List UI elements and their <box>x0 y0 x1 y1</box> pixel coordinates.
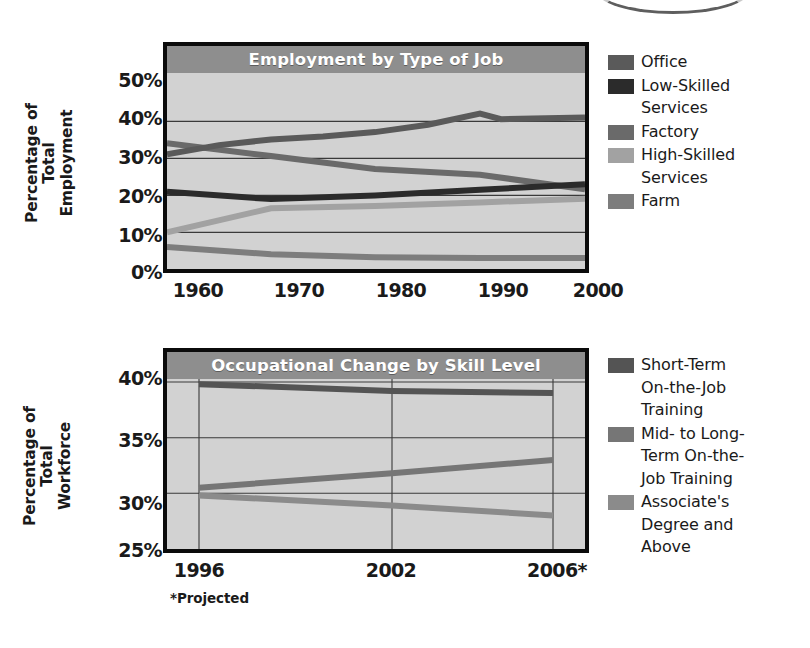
y-tick-label: 20% <box>118 185 162 207</box>
y-tick-label: 30% <box>118 492 162 514</box>
x-tick-label: 2002 <box>366 559 416 581</box>
legend-item-factory[interactable]: Factory <box>608 121 808 144</box>
y-tick-label: 30% <box>118 146 162 168</box>
y-tick-label: 25% <box>118 539 162 561</box>
bottom-chart-plot-area: Occupational Change by Skill Level <box>163 348 589 553</box>
x-tick-label: 1980 <box>376 279 426 301</box>
bottom-chart-legend: Short-Term On-the-Job Training Mid- to L… <box>608 354 808 560</box>
bottom-chart-footnote: *Projected <box>170 590 249 606</box>
employment-by-type-of-job-figure: Percentage of Total Employment 50% 40% 3… <box>0 0 810 312</box>
series-line-low-skilled-services <box>167 184 585 199</box>
series-line-associates-degree <box>199 496 553 516</box>
legend-item-high-skilled-services[interactable]: High-Skilled Services <box>608 144 808 189</box>
legend-item-label: Short-Term On-the-Job Training <box>641 354 726 422</box>
bottom-chart-y-axis-title: Percentage of Total Workforce <box>22 386 74 546</box>
y-tick-label: 40% <box>118 107 162 129</box>
bottom-chart-title: Occupational Change by Skill Level <box>211 356 541 375</box>
y-tick-label: 40% <box>118 367 162 389</box>
x-tick-label: 1996 <box>174 559 224 581</box>
y-tick-label: 50% <box>118 69 162 91</box>
legend-item-short-term-training[interactable]: Short-Term On-the-Job Training <box>608 354 808 422</box>
bottom-chart-y-tick-labels: 40% 35% 30% 25% <box>96 312 162 572</box>
top-chart-legend: Office Low-Skilled Services Factory High… <box>608 51 808 214</box>
legend-item-label: Mid- to Long- Term On-the- Job Training <box>641 423 745 491</box>
legend-swatch-icon <box>608 495 634 510</box>
series-line-high-skilled-services <box>167 199 585 233</box>
legend-swatch-icon <box>608 125 634 140</box>
legend-swatch-icon <box>608 358 634 373</box>
x-tick-label: 2006* <box>527 559 587 581</box>
legend-item-label: Farm <box>641 190 680 213</box>
bottom-chart-title-banner: Occupational Change by Skill Level <box>167 352 585 379</box>
top-chart-plot-area: Employment by Type of Job <box>163 42 589 273</box>
series-line-factory <box>167 143 585 189</box>
bottom-chart-svg <box>167 352 585 549</box>
y-tick-label: 35% <box>118 429 162 451</box>
x-tick-label: 1970 <box>274 279 324 301</box>
legend-item-label: Associate's Degree and Above <box>641 491 733 559</box>
y-tick-label: 10% <box>118 224 162 246</box>
legend-item-label: Factory <box>641 121 699 144</box>
x-tick-label: 2000 <box>573 279 623 301</box>
x-tick-label: 1960 <box>173 279 223 301</box>
legend-item-label: High-Skilled Services <box>641 144 735 189</box>
x-tick-label: 1990 <box>478 279 528 301</box>
legend-swatch-icon <box>608 427 634 442</box>
series-line-farm <box>167 247 585 258</box>
legend-item-label: Low-Skilled Services <box>641 75 730 120</box>
top-chart-title: Employment by Type of Job <box>249 50 504 69</box>
series-line-short-term-training <box>199 384 553 393</box>
occupational-change-by-skill-level-figure: Percentage of Total Workforce 40% 35% 30… <box>0 312 810 648</box>
legend-swatch-icon <box>608 55 634 70</box>
series-line-mid-long-term-training <box>199 460 553 488</box>
legend-swatch-icon <box>608 194 634 209</box>
legend-item-low-skilled-services[interactable]: Low-Skilled Services <box>608 75 808 120</box>
top-chart-svg <box>167 46 585 269</box>
legend-swatch-icon <box>608 148 634 163</box>
y-tick-label: 0% <box>131 261 162 283</box>
legend-swatch-icon <box>608 79 634 94</box>
legend-item-farm[interactable]: Farm <box>608 190 808 213</box>
legend-item-office[interactable]: Office <box>608 51 808 74</box>
top-chart-y-tick-labels: 50% 40% 30% 20% 10% 0% <box>96 0 162 300</box>
top-chart-y-axis-title: Percentage of Total Employment <box>24 83 76 243</box>
legend-item-mid-long-term-training[interactable]: Mid- to Long- Term On-the- Job Training <box>608 423 808 491</box>
legend-item-label: Office <box>641 51 687 74</box>
top-chart-title-banner: Employment by Type of Job <box>167 46 585 73</box>
legend-item-associates-degree[interactable]: Associate's Degree and Above <box>608 491 808 559</box>
